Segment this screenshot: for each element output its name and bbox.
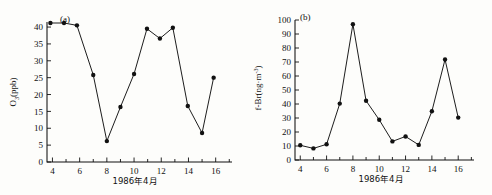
data-point: [298, 143, 302, 147]
x-tick-label: 12: [401, 164, 410, 174]
panel-b-tag: (b): [300, 12, 311, 22]
data-point: [456, 115, 460, 119]
y-tick-label: 40: [282, 99, 292, 109]
data-point: [105, 139, 109, 143]
data-point: [430, 109, 434, 113]
y-tick-label: 80: [282, 43, 292, 53]
panel-b-axes: [295, 20, 474, 160]
y-tick-label: 0: [39, 157, 44, 167]
x-tick-label: 8: [351, 164, 356, 174]
panel-b-x-axis-label: 1986年4月: [358, 174, 403, 184]
y-tick-label: 20: [282, 127, 292, 137]
x-tick-label: 10: [130, 166, 140, 176]
panel-a-axes: [47, 22, 232, 162]
data-point: [338, 101, 342, 105]
data-point: [171, 26, 175, 30]
y-tick-label: 10: [34, 123, 44, 133]
x-tick-label: 14: [184, 166, 194, 176]
x-tick-label: 14: [427, 164, 437, 174]
y-tick-label: 50: [282, 85, 292, 95]
panel-b-y-axis-label: f-Br(ng·m-3): [252, 65, 263, 110]
panel-a-svg: 0510152025303540 46810121416 O3(ppb) 198…: [0, 0, 246, 195]
data-point: [145, 27, 149, 31]
data-point: [118, 105, 122, 109]
y-tick-label: 35: [34, 39, 44, 49]
y-tick-label: 0: [287, 155, 292, 165]
panel-a-y-axis-label: O3(ppb): [8, 77, 20, 106]
x-tick-label: 4: [298, 164, 303, 174]
svg-text:f-Br(ng·m-3): f-Br(ng·m-3): [252, 65, 263, 110]
data-point: [186, 104, 190, 108]
x-tick-label: 8: [105, 166, 110, 176]
data-point: [377, 118, 381, 122]
data-point: [158, 36, 162, 40]
panel-a-tag: (a): [60, 14, 70, 24]
data-point: [311, 146, 315, 150]
x-tick-label: 6: [324, 164, 329, 174]
panel-a-y-ticks: [47, 27, 51, 162]
data-point: [211, 75, 215, 79]
x-tick-label: 12: [157, 166, 166, 176]
data-point: [390, 139, 394, 143]
panel-a-ylabel-unit: (ppb): [8, 77, 18, 97]
data-point: [443, 57, 447, 61]
panel-b-y-tick-labels: 0102030405060708090100: [278, 15, 292, 165]
x-tick-label: 10: [375, 164, 385, 174]
panel-b-x-ticks: [300, 156, 471, 161]
panel-b-y-ticks: [295, 20, 299, 160]
y-tick-label: 40: [34, 22, 44, 32]
x-tick-label: 16: [211, 166, 221, 176]
y-tick-label: 90: [282, 29, 292, 39]
y-tick-label: 25: [34, 73, 44, 83]
panel-a-x-ticks: [52, 158, 229, 163]
y-tick-label: 5: [39, 140, 44, 150]
y-tick-label: 30: [282, 113, 292, 123]
chart-panel-b: 0102030405060708090100 46810121416 f-Br(…: [246, 0, 492, 195]
svg-text:O3(ppb): O3(ppb): [8, 77, 20, 106]
panel-a-x-axis-label: 1986年4月: [112, 176, 157, 186]
panel-b-ylabel-main: f-Br(ng·m: [253, 74, 263, 111]
figure-container: 0510152025303540 46810121416 O3(ppb) 198…: [0, 0, 492, 195]
y-tick-label: 100: [278, 15, 292, 25]
panel-a-series-line: [50, 23, 213, 141]
data-point: [324, 142, 328, 146]
data-point: [351, 22, 355, 26]
data-point: [132, 72, 136, 76]
x-tick-label: 6: [77, 166, 82, 176]
y-tick-label: 15: [34, 107, 44, 117]
panel-b-svg: 0102030405060708090100 46810121416 f-Br(…: [246, 0, 492, 195]
panel-b-ylabel-close: ): [253, 65, 263, 68]
y-tick-label: 30: [34, 56, 44, 66]
panel-b-x-tick-labels: 46810121416: [298, 164, 463, 174]
y-tick-label: 70: [282, 57, 292, 67]
data-point: [200, 131, 204, 135]
x-tick-label: 4: [50, 166, 55, 176]
data-point: [364, 99, 368, 103]
x-tick-label: 16: [454, 164, 464, 174]
data-point: [91, 73, 95, 77]
panel-a-y-tick-labels: 0510152025303540: [34, 22, 44, 167]
y-tick-label: 60: [282, 71, 292, 81]
panel-b-data-markers: [298, 22, 460, 151]
panel-b-series-line: [300, 24, 458, 148]
panel-a-data-markers: [48, 21, 216, 143]
data-point: [417, 143, 421, 147]
chart-panel-a: 0510152025303540 46810121416 O3(ppb) 198…: [0, 0, 246, 195]
data-point: [48, 21, 52, 25]
y-tick-label: 10: [282, 141, 292, 151]
y-tick-label: 20: [34, 90, 44, 100]
data-point: [403, 134, 407, 138]
data-point: [75, 23, 79, 27]
panel-a-x-tick-labels: 46810121416: [50, 166, 220, 176]
